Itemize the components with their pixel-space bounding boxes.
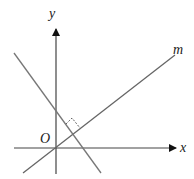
coordinate-diagram: y x O m [0,0,194,179]
x-axis-label: x [179,140,187,155]
right-angle-marker [66,118,80,128]
y-axis-label: y [47,6,56,21]
line-m-label: m [173,42,183,57]
origin-label: O [40,131,50,146]
perpendicular-line [14,53,101,173]
line-m [23,55,175,173]
